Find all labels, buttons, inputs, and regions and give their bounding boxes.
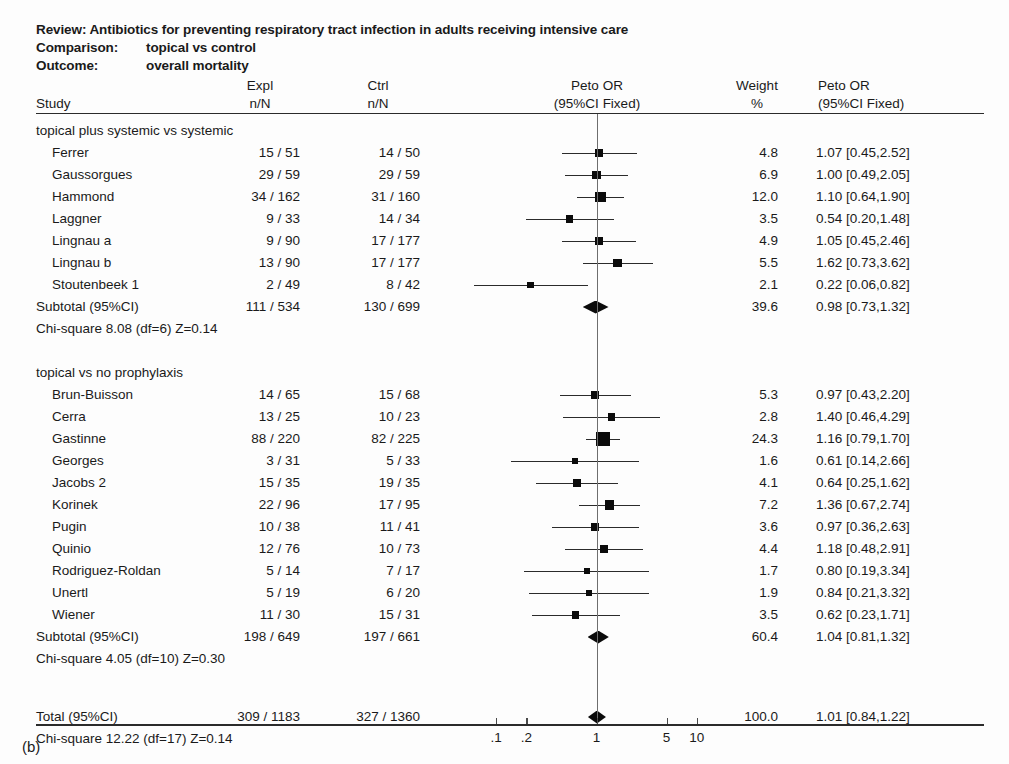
x-axis-tick-label: .2 (521, 730, 532, 745)
expl-events-total: 5 / 19 (266, 582, 300, 604)
study-name: Quinio (52, 538, 91, 560)
odds-ratio-value: 0.61 [0.14,2.66] (816, 450, 910, 472)
ctrl-events-total: 10 / 73 (379, 538, 420, 560)
study-name: Korinek (52, 494, 98, 516)
ctrl-events-total: 17 / 177 (371, 230, 420, 252)
weight-value: 1.6 (759, 450, 778, 472)
forest-plot-figure: Review: Antibiotics for preventing respi… (0, 0, 1009, 764)
expl-events-total: 34 / 162 (251, 186, 300, 208)
weight-value: 12.0 (752, 186, 778, 208)
subtotal-label: Subtotal (95%CI) (36, 626, 139, 648)
outcome-value: overall mortality (146, 58, 249, 73)
ctrl-events-total: 10 / 23 (379, 406, 420, 428)
expl-events-total: 88 / 220 (251, 428, 300, 450)
column-header-study: Study (36, 96, 71, 111)
comparison-label: Comparison: (36, 40, 118, 55)
study-name: Rodriguez-Roldan (52, 560, 161, 582)
weight-value: 4.9 (759, 230, 778, 252)
x-axis-tick-label: 5 (663, 730, 671, 745)
expl-events-total: 3 / 31 (266, 450, 300, 472)
ctrl-events-total: 29 / 59 (379, 164, 420, 186)
group-heading-label: topical vs no prophylaxis (36, 362, 183, 384)
heterogeneity-row: Chi-square 8.08 (df=6) Z=0.14 (0, 318, 1009, 340)
odds-ratio-value: 1.05 [0.45,2.46] (816, 230, 910, 252)
x-axis-line (36, 724, 984, 726)
odds-ratio-value: 0.84 [0.21,3.32] (816, 582, 910, 604)
odds-ratio-value: 0.54 [0.20,1.48] (816, 208, 910, 230)
total-heterogeneity-stats: Chi-square 12.22 (df=17) Z=0.14 (36, 728, 233, 750)
weight-value: 1.7 (759, 560, 778, 582)
table-row: Brun-Buisson14 / 6515 / 685.30.97 [0.43,… (0, 384, 1009, 406)
ctrl-events-total: 14 / 50 (379, 142, 420, 164)
group-heading-label: topical plus systemic vs systemic (36, 120, 233, 142)
weight-value: 3.5 (759, 604, 778, 626)
heterogeneity-stats: Chi-square 8.08 (df=6) Z=0.14 (36, 318, 218, 340)
ctrl-events-total: 7 / 17 (386, 560, 420, 582)
weight-value: 2.1 (759, 274, 778, 296)
table-row: Lingnau b13 / 9017 / 1775.51.62 [0.73,3.… (0, 252, 1009, 274)
weight-value: 2.8 (759, 406, 778, 428)
expl-events-total: 15 / 51 (259, 142, 300, 164)
odds-ratio-value: 1.36 [0.67,2.74] (816, 494, 910, 516)
weight-value: 4.8 (759, 142, 778, 164)
x-axis-tick (496, 718, 497, 724)
x-axis-tick-label: 1 (593, 730, 601, 745)
table-row: Jacobs 215 / 3519 / 354.10.64 [0.25,1.62… (0, 472, 1009, 494)
subtotal-row: Subtotal (95%CI)111 / 534130 / 69939.60.… (0, 296, 1009, 318)
x-axis-tick (526, 718, 527, 724)
x-axis-tick (667, 718, 668, 724)
odds-ratio-value: 1.00 [0.49,2.05] (816, 164, 910, 186)
weight-value: 5.5 (759, 252, 778, 274)
column-header-or-ci: (95%CI Fixed) (818, 96, 904, 111)
ctrl-events-total: 15 / 31 (379, 604, 420, 626)
subtotal-expl: 198 / 649 (244, 626, 300, 648)
odds-ratio-value: 0.97 [0.43,2.20] (816, 384, 910, 406)
x-axis-tick-label: 10 (689, 730, 704, 745)
subtotal-ctrl: 130 / 699 (364, 296, 420, 318)
expl-events-total: 5 / 14 (266, 560, 300, 582)
subtotal-weight: 39.6 (752, 296, 778, 318)
subtotal-weight: 60.4 (752, 626, 778, 648)
weight-value: 6.9 (759, 164, 778, 186)
expl-events-total: 12 / 76 (259, 538, 300, 560)
weight-value: 5.3 (759, 384, 778, 406)
expl-events-total: 29 / 59 (259, 164, 300, 186)
subtotal-odds-ratio: 1.04 [0.81,1.32] (816, 626, 910, 648)
expl-events-total: 2 / 49 (266, 274, 300, 296)
odds-ratio-value: 1.62 [0.73,3.62] (816, 252, 910, 274)
table-row: Laggner9 / 3314 / 343.50.54 [0.20,1.48] (0, 208, 1009, 230)
expl-events-total: 15 / 35 (259, 472, 300, 494)
expl-events-total: 13 / 90 (259, 252, 300, 274)
table-row: Gaussorgues29 / 5929 / 596.91.00 [0.49,2… (0, 164, 1009, 186)
weight-value: 4.1 (759, 472, 778, 494)
odds-ratio-value: 1.16 [0.79,1.70] (816, 428, 910, 450)
figure-label: (b) (22, 738, 40, 755)
study-name: Hammond (52, 186, 114, 208)
odds-ratio-value: 1.18 [0.48,2.91] (816, 538, 910, 560)
weight-value: 1.9 (759, 582, 778, 604)
study-name: Gaussorgues (52, 164, 132, 186)
table-row: Wiener11 / 3015 / 313.50.62 [0.23,1.71] (0, 604, 1009, 626)
column-header-ctrl: Ctrl (368, 78, 389, 93)
table-row: Stoutenbeek 12 / 498 / 422.10.22 [0.06,0… (0, 274, 1009, 296)
expl-events-total: 9 / 33 (266, 208, 300, 230)
study-name: Jacobs 2 (52, 472, 106, 494)
weight-value: 3.5 (759, 208, 778, 230)
expl-events-total: 11 / 30 (260, 604, 300, 626)
study-name: Wiener (52, 604, 95, 626)
weight-value: 7.2 (759, 494, 778, 516)
ctrl-events-total: 31 / 160 (371, 186, 420, 208)
column-header-expl: Expl (247, 78, 273, 93)
study-name: Lingnau b (52, 252, 111, 274)
column-header-weight-pct: % (751, 96, 763, 111)
ctrl-events-total: 11 / 41 (380, 516, 420, 538)
column-header-ctrl-nn: n/N (367, 96, 388, 111)
study-name: Cerra (52, 406, 86, 428)
weight-value: 24.3 (752, 428, 778, 450)
heterogeneity-row: Chi-square 4.05 (df=10) Z=0.30 (0, 648, 1009, 670)
ctrl-events-total: 14 / 34 (379, 208, 420, 230)
weight-value: 4.4 (759, 538, 778, 560)
table-row: Hammond34 / 16231 / 16012.01.10 [0.64,1.… (0, 186, 1009, 208)
header-divider (36, 113, 984, 114)
ctrl-events-total: 6 / 20 (386, 582, 420, 604)
